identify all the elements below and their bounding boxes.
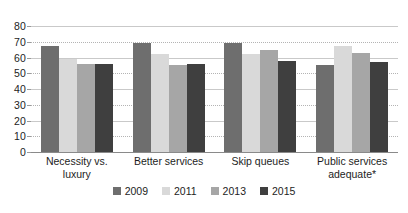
y-axis-label: 20 bbox=[14, 115, 26, 126]
bar-2013 bbox=[77, 64, 95, 152]
legend: 2009 2011 2013 2015 bbox=[0, 186, 408, 197]
bar-2013 bbox=[260, 50, 278, 152]
legend-item-2011: 2011 bbox=[162, 186, 197, 197]
legend-swatch-icon bbox=[113, 187, 121, 195]
bar-2011 bbox=[59, 59, 77, 152]
bar-2009 bbox=[133, 43, 151, 152]
y-axis-label: 10 bbox=[14, 131, 26, 142]
bars bbox=[215, 26, 307, 152]
bar-2011 bbox=[151, 54, 169, 152]
legend-item-2013: 2013 bbox=[211, 186, 246, 197]
plot-area bbox=[31, 26, 398, 152]
bar-chart: 80 70 60 50 40 30 20 10 0 bbox=[0, 0, 408, 213]
bar-2009 bbox=[224, 43, 242, 152]
bar-group-public-services-adequate bbox=[306, 26, 398, 152]
bars bbox=[31, 26, 123, 152]
bar-group-necessity-vs-luxury bbox=[31, 26, 123, 152]
bar-group-better-services bbox=[123, 26, 215, 152]
legend-label: 2013 bbox=[223, 186, 246, 197]
axis-baseline bbox=[31, 152, 398, 153]
legend-item-2015: 2015 bbox=[260, 186, 295, 197]
bar-2009 bbox=[41, 46, 59, 152]
x-axis-label-better-services: Better services bbox=[123, 155, 215, 180]
y-axis-tick bbox=[27, 152, 31, 153]
x-axis-label-skip-queues: Skip queues bbox=[215, 155, 307, 180]
y-axis-label: 80 bbox=[14, 21, 26, 32]
y-axis-label: 50 bbox=[14, 68, 26, 79]
y-axis-label: 60 bbox=[14, 52, 26, 63]
bar-2015 bbox=[95, 64, 113, 152]
bars bbox=[306, 26, 398, 152]
legend-label: 2015 bbox=[272, 186, 295, 197]
legend-label: 2009 bbox=[125, 186, 148, 197]
bar-2009 bbox=[316, 65, 334, 152]
y-axis-label: 70 bbox=[14, 37, 26, 48]
x-axis-label-public-services-adequate: Public services adequate* bbox=[306, 155, 398, 180]
legend-item-2009: 2009 bbox=[113, 186, 148, 197]
bar-2011 bbox=[334, 46, 352, 152]
bar-2013 bbox=[169, 65, 187, 152]
y-axis: 80 70 60 50 40 30 20 10 0 bbox=[0, 0, 31, 178]
bar-2013 bbox=[352, 53, 370, 152]
legend-label: 2011 bbox=[174, 186, 197, 197]
bar-group-skip-queues bbox=[215, 26, 307, 152]
bars bbox=[123, 26, 215, 152]
legend-swatch-icon bbox=[162, 187, 170, 195]
legend-swatch-icon bbox=[260, 187, 268, 195]
bar-2011 bbox=[242, 54, 260, 152]
bar-2015 bbox=[370, 62, 388, 152]
bar-groups bbox=[31, 26, 398, 152]
y-axis-label: 40 bbox=[14, 84, 26, 95]
legend-swatch-icon bbox=[211, 187, 219, 195]
y-axis-label: 0 bbox=[20, 147, 26, 158]
y-axis-label: 30 bbox=[14, 100, 26, 111]
bar-2015 bbox=[278, 61, 296, 152]
x-axis-labels: Necessity vs. luxury Better services Ski… bbox=[31, 155, 398, 180]
x-axis-label-necessity-vs-luxury: Necessity vs. luxury bbox=[31, 155, 123, 180]
bar-2015 bbox=[187, 64, 205, 152]
